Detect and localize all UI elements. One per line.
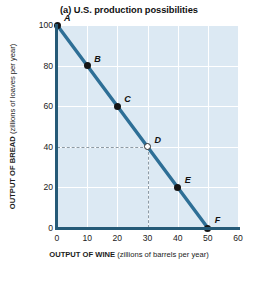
- x-tick-label: 20: [105, 233, 129, 243]
- y-axis-title: OUTPUT OF BREAD (zillions of loaves per …: [8, 29, 17, 225]
- y-tick-label: 80: [31, 61, 53, 71]
- x-tick-label: 0: [45, 233, 69, 243]
- guide-line-vertical: [148, 147, 149, 228]
- x-tick-label: 10: [75, 233, 99, 243]
- plot-area: ABCDEF: [57, 25, 238, 228]
- x-tick-label: 50: [196, 233, 220, 243]
- data-point-label-a: A: [64, 13, 71, 23]
- y-axis-title-units: (zillions of loaves per year): [8, 44, 17, 134]
- data-point-label-c: C: [124, 94, 131, 104]
- x-axis-title: OUTPUT OF WINE (zillions of barrels per …: [0, 250, 258, 259]
- gridline-vertical: [238, 25, 239, 228]
- data-point-e: [174, 184, 181, 191]
- guide-line-horizontal: [57, 147, 148, 148]
- y-tick-label: 20: [31, 182, 53, 192]
- y-tick-label: 40: [31, 142, 53, 152]
- y-tick-label: 0: [31, 223, 53, 233]
- x-axis-line: [55, 227, 240, 230]
- data-point-label-e: E: [185, 175, 191, 185]
- y-tick-label: 60: [31, 101, 53, 111]
- data-point-label-f: F: [215, 215, 221, 225]
- production-possibilities-chart: (a) U.S. production possibilities ABCDEF…: [0, 0, 258, 285]
- x-tick-label: 60: [226, 233, 250, 243]
- x-axis-title-bold: OUTPUT OF WINE: [49, 250, 115, 259]
- y-axis-line: [55, 24, 58, 230]
- data-point-label-d: D: [155, 135, 162, 145]
- x-tick-label: 40: [166, 233, 190, 243]
- y-axis-title-bold: OUTPUT OF BREAD: [8, 136, 17, 209]
- x-axis-title-units: (zillions of barrels per year): [117, 250, 209, 259]
- data-point-c: [114, 103, 121, 110]
- y-tick-label: 100: [31, 20, 53, 30]
- ppf-line: [57, 25, 208, 228]
- data-point-b: [84, 62, 91, 69]
- data-point-label-b: B: [94, 54, 101, 64]
- x-tick-label: 30: [136, 233, 160, 243]
